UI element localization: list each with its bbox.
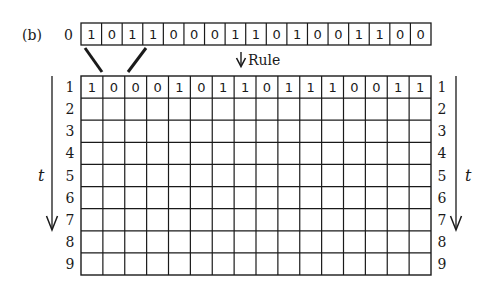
grid-cell: 1 bbox=[328, 80, 336, 95]
initial-row-index-label: 0 bbox=[64, 27, 73, 43]
neighborhood-right-line bbox=[128, 48, 146, 72]
rule-indicator: Rule bbox=[237, 52, 281, 68]
rule-arrow-icon bbox=[237, 52, 246, 67]
grid-cell: 0 bbox=[372, 80, 380, 95]
grid-cell: 1 bbox=[219, 80, 227, 95]
grid-cell: 1 bbox=[416, 80, 424, 95]
row-label-left: 7 bbox=[66, 212, 75, 228]
row-label-right: 6 bbox=[438, 190, 447, 206]
initial-cell: 0 bbox=[272, 27, 280, 42]
initial-cell: 0 bbox=[314, 27, 322, 42]
initial-cell: 1 bbox=[128, 27, 136, 42]
initial-cell: 0 bbox=[396, 27, 404, 42]
panel-label: (b) bbox=[22, 27, 42, 43]
initial-cell: 1 bbox=[231, 27, 239, 42]
row-label-right: 7 bbox=[438, 212, 447, 228]
grid-cell: 1 bbox=[241, 80, 249, 95]
initial-cell: 0 bbox=[108, 27, 116, 42]
grid-cell: 0 bbox=[350, 80, 358, 95]
left-row-labels: 123456789 bbox=[66, 79, 75, 272]
right-time-label: t bbox=[465, 166, 472, 185]
initial-cell: 1 bbox=[149, 27, 157, 42]
grid-cell: 0 bbox=[132, 80, 140, 95]
row-label-right: 2 bbox=[438, 101, 447, 117]
neighborhood-left-line bbox=[85, 48, 102, 72]
row-label-right: 4 bbox=[438, 145, 447, 161]
grid-cell: 0 bbox=[110, 80, 118, 95]
grid-cell: 0 bbox=[263, 80, 271, 95]
initial-cell: 0 bbox=[417, 27, 425, 42]
initial-row: 10110001101001100 bbox=[81, 23, 431, 45]
grid-cell: 0 bbox=[153, 80, 161, 95]
left-time-axis: t bbox=[38, 76, 58, 230]
grid-cell: 1 bbox=[307, 80, 315, 95]
neighborhood-lines bbox=[85, 48, 146, 72]
row-label-left: 5 bbox=[66, 168, 75, 184]
grid-cell: 0 bbox=[197, 80, 205, 95]
grid-cell: 1 bbox=[394, 80, 402, 95]
row-label-right: 1 bbox=[438, 79, 447, 95]
rule-label: Rule bbox=[248, 52, 280, 68]
row-label-left: 3 bbox=[66, 123, 75, 139]
row-label-left: 4 bbox=[66, 145, 75, 161]
figure-canvas: (b) 0 10110001101001100 Rule 10001011011… bbox=[0, 0, 490, 284]
initial-cell: 0 bbox=[190, 27, 198, 42]
row-label-right: 8 bbox=[438, 234, 447, 250]
row-label-left: 1 bbox=[66, 79, 75, 95]
row-label-left: 9 bbox=[66, 256, 75, 272]
row-label-left: 2 bbox=[66, 101, 75, 117]
grid-cell: 1 bbox=[88, 80, 96, 95]
row-label-right: 3 bbox=[438, 123, 447, 139]
initial-cell: 1 bbox=[375, 27, 383, 42]
evolution-grid: 1000101101110011 bbox=[81, 76, 431, 275]
right-row-labels: 123456789 bbox=[438, 79, 447, 272]
grid-cell: 1 bbox=[285, 80, 293, 95]
initial-cell: 1 bbox=[87, 27, 95, 42]
row-label-left: 8 bbox=[66, 234, 75, 250]
initial-cell: 0 bbox=[334, 27, 342, 42]
row-label-left: 6 bbox=[66, 190, 75, 206]
initial-cell: 1 bbox=[293, 27, 301, 42]
cellular-automaton-figure: (b) 0 10110001101001100 Rule 10001011011… bbox=[0, 0, 490, 284]
initial-cell: 1 bbox=[355, 27, 363, 42]
left-time-label: t bbox=[38, 166, 45, 185]
initial-cell: 0 bbox=[211, 27, 219, 42]
row-label-right: 5 bbox=[438, 168, 447, 184]
row-label-right: 9 bbox=[438, 256, 447, 272]
initial-cell: 0 bbox=[170, 27, 178, 42]
right-time-axis: t bbox=[451, 76, 473, 230]
grid-cell: 1 bbox=[175, 80, 183, 95]
initial-cell: 1 bbox=[252, 27, 260, 42]
